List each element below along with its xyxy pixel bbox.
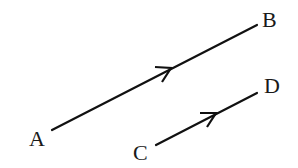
segment-cd	[156, 93, 257, 145]
label-b: B	[262, 7, 277, 32]
segment-ab	[52, 25, 257, 130]
vector-diagram: A B C D	[0, 0, 298, 168]
label-d: D	[264, 73, 280, 98]
label-a: A	[29, 126, 45, 151]
label-c: C	[133, 140, 148, 165]
